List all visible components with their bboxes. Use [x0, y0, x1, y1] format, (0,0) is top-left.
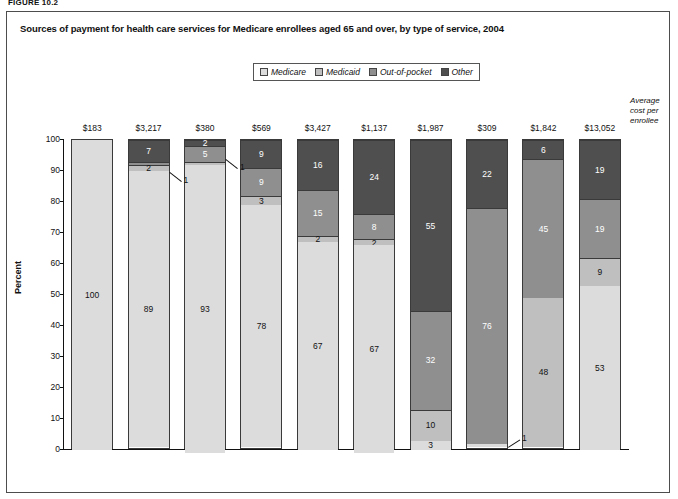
callout-leader-line: [225, 159, 238, 169]
bar-segment-medicare: 78: [241, 205, 281, 447]
average-cost-note-line: enrollee: [630, 116, 676, 126]
bar-segment-value: 24: [369, 173, 378, 182]
bar-segment-medicare: 53: [580, 286, 620, 450]
y-tick-label: 90: [51, 165, 60, 175]
bar-segment-other: 9: [241, 140, 281, 168]
bar-segment-value: 67: [313, 342, 322, 351]
bar-segment-value: 76: [482, 322, 491, 331]
chart-legend: MedicareMedicaidOut-of-pocketOther: [253, 63, 480, 81]
bar-segment-value: 3: [259, 197, 264, 206]
bar-segment-medicare: 67: [298, 242, 338, 450]
bar-segment-value: 78: [257, 322, 266, 331]
y-tick-label: 10: [51, 413, 60, 423]
bar-segment-value: 67: [369, 345, 378, 354]
bar-segment-out-of-pocket: 45: [523, 159, 563, 299]
bar-segment-value: 5: [203, 150, 208, 159]
bar-segment-other: 7: [129, 140, 169, 162]
bar-segment-value: 19: [595, 225, 604, 234]
bar-cost-label: $183: [72, 123, 112, 133]
legend-swatch-icon: [260, 68, 268, 76]
stacked-bar: $183100: [71, 139, 113, 449]
bar-segment-other: 16: [298, 140, 338, 190]
bar-segment-value: 9: [259, 150, 264, 159]
y-tick-label: 30: [51, 351, 60, 361]
chart-title: Sources of payment for health care servi…: [20, 23, 504, 34]
bar-segment-value: 16: [313, 161, 322, 170]
legend-label: Medicaid: [326, 67, 360, 77]
bar-segment-other: 19: [580, 140, 620, 199]
bar-segment-value: 22: [482, 170, 491, 179]
callout-leader-line: [508, 439, 521, 448]
stacked-bar: $1,84264548: [522, 139, 564, 449]
bar-cost-label: $569: [241, 123, 281, 133]
y-tick-mark: [60, 232, 64, 233]
y-tick-mark: [60, 294, 64, 295]
average-cost-note: Averagecost perenrollee: [630, 96, 676, 126]
stacked-bar: $30922761: [466, 139, 508, 449]
y-tick-label: 100: [46, 134, 60, 144]
stacked-bar: $3,21771289: [128, 139, 170, 449]
bar-segment-value: 10: [426, 421, 435, 430]
bar-cost-label: $13,052: [580, 123, 620, 133]
bar-segment-value: 100: [85, 291, 99, 300]
legend-label: Medicare: [271, 67, 306, 77]
stacked-bar: $3,4271615267: [297, 139, 339, 449]
bar-segment-out-of-pocket: 32: [411, 311, 451, 410]
legend-swatch-icon: [441, 68, 449, 76]
y-tick-mark: [60, 356, 64, 357]
bar-segment-out-of-pocket: 19: [580, 199, 620, 258]
bar-segment-medicare: 67: [354, 245, 394, 453]
bar-segment-medicaid: 48: [523, 298, 563, 447]
plot-area: 0102030405060708090100$183100Hospice$3,2…: [64, 139, 628, 449]
bar-cost-label: $3,427: [298, 123, 338, 133]
bar-segment-out-of-pocket: 15: [298, 190, 338, 237]
legend-item-medicare: Medicare: [260, 67, 306, 77]
y-tick-mark: [60, 418, 64, 419]
bar-cost-label: $309: [467, 123, 507, 133]
legend-item-other: Other: [441, 67, 473, 77]
bar-segment-value: 19: [595, 166, 604, 175]
bar-cost-label: $380: [185, 123, 225, 133]
bar-segment-out-of-pocket: 9: [241, 168, 281, 196]
bar-segment-other: 24: [354, 140, 394, 214]
legend-item-out-of-pocket: Out-of-pocket: [369, 67, 432, 77]
y-tick-mark: [60, 325, 64, 326]
bar-segment-value: 7: [146, 147, 151, 156]
legend-label: Other: [452, 67, 473, 77]
legend-label: Out-of-pocket: [380, 67, 432, 77]
bar-segment-value: 9: [597, 268, 602, 277]
bar-cost-label: $1,842: [523, 123, 563, 133]
y-tick-mark: [60, 201, 64, 202]
bar-segment-medicaid: 3: [241, 196, 281, 205]
stacked-bar: $13,0521919953: [579, 139, 621, 449]
y-tick-label: 20: [51, 382, 60, 392]
y-tick-mark: [60, 139, 64, 140]
bar-segment-value: 89: [144, 305, 153, 314]
legend-swatch-icon: [315, 68, 323, 76]
callout-label: 1: [184, 175, 189, 185]
y-tick-mark: [60, 449, 64, 450]
stacked-bar: $1,137248267: [353, 139, 395, 449]
y-tick-label: 50: [51, 289, 60, 299]
bar-segment-value: 6: [541, 146, 546, 155]
bar-segment-value: 32: [426, 356, 435, 365]
legend-swatch-icon: [369, 68, 377, 76]
bar-segment-medicaid: 9: [580, 258, 620, 286]
x-axis-line: [63, 449, 629, 450]
bar-segment-medicare: 89: [129, 171, 169, 447]
bar-cost-label: $1,987: [411, 123, 451, 133]
y-tick-label: 40: [51, 320, 60, 330]
callout-label: 1: [240, 162, 245, 172]
bar-segment-value: 8: [372, 223, 377, 232]
stacked-bar: $38025193: [184, 139, 226, 449]
bar-segment-value: 55: [426, 222, 435, 231]
legend-item-medicaid: Medicaid: [315, 67, 360, 77]
bar-segment-medicare: 100: [72, 140, 112, 450]
y-tick-mark: [60, 263, 64, 264]
average-cost-note-line: cost per: [630, 106, 676, 116]
bar-cost-label: $3,217: [129, 123, 169, 133]
bar-segment-medicare: 93: [185, 165, 225, 453]
bar-segment-value: 45: [539, 225, 548, 234]
bar-segment-other: 55: [411, 140, 451, 311]
bar-segment-out-of-pocket: 8: [354, 214, 394, 239]
